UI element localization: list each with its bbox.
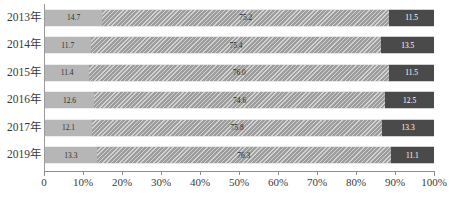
bar-segment-value-label: 76.0 (233, 69, 246, 77)
bar-segment-value-label: 13.3 (64, 151, 77, 159)
axis-tick (395, 171, 396, 175)
bar-segment-series-3: 11.5 (389, 64, 434, 81)
bar-segment-series-2: 74.6 (94, 92, 385, 109)
stacked-bar-chart: 2013年14.775.211.52014年11.775.413.52015年1… (0, 0, 452, 202)
stacked-bar: 14.775.211.5 (45, 9, 434, 26)
bar-row: 2017年12.175.813.3 (0, 114, 452, 141)
bar-segment-value-label: 13.3 (402, 124, 415, 132)
bar-segment-value-label: 11.5 (405, 69, 418, 77)
bar-segment-value-label: 76.3 (237, 151, 250, 159)
axis-tick (200, 171, 201, 175)
axis-tick (161, 171, 162, 175)
axis-tick-label: 80% (346, 177, 366, 188)
bar-segment-series-2: 75.2 (102, 9, 389, 26)
bar-segment-series-2: 76.0 (89, 64, 389, 81)
bar-segment-series-3: 13.3 (382, 119, 434, 136)
bar-segment-series-1: 12.1 (45, 119, 92, 136)
value-axis: 010%20%30%40%50%60%70%80%90%100% (44, 171, 434, 201)
stacked-bar: 11.476.011.5 (45, 64, 434, 81)
axis-tick (278, 171, 279, 175)
stacked-bar: 12.674.612.5 (45, 92, 434, 109)
bar-segment-value-label: 12.6 (63, 96, 76, 104)
bar-segment-series-3: 11.1 (391, 147, 434, 164)
bar-segment-value-label: 75.4 (229, 41, 242, 49)
bar-row: 2014年11.775.413.5 (0, 32, 452, 59)
axis-tick-label: 50% (229, 177, 249, 188)
bar-segment-value-label: 12.1 (62, 124, 75, 132)
axis-tick-label: 20% (112, 177, 132, 188)
bar-segment-value-label: 74.6 (233, 96, 246, 104)
bar-segment-value-label: 75.2 (239, 14, 252, 22)
bar-segment-series-3: 11.5 (389, 9, 434, 26)
bar-segment-value-label: 12.5 (403, 96, 416, 104)
axis-tick-label: 30% (151, 177, 171, 188)
bar-segment-value-label: 75.8 (231, 124, 244, 132)
category-label: 2015年 (0, 67, 41, 79)
bar-segment-value-label: 14.7 (67, 14, 80, 22)
axis-tick-label: 60% (268, 177, 288, 188)
bar-segment-value-label: 13.5 (401, 41, 414, 49)
axis-tick-label: 70% (307, 177, 327, 188)
bar-row: 2019年13.376.311.1 (0, 142, 452, 169)
category-label: 2016年 (0, 94, 41, 106)
bar-segment-series-3: 12.5 (385, 92, 434, 109)
bar-segment-series-1: 11.7 (45, 37, 91, 54)
bar-row: 2016年12.674.612.5 (0, 87, 452, 114)
bar-segment-value-label: 11.1 (406, 151, 419, 159)
axis-tick (356, 171, 357, 175)
bar-segment-series-1: 13.3 (45, 147, 97, 164)
axis-tick (122, 171, 123, 175)
bar-segment-series-1: 14.7 (45, 9, 102, 26)
category-label: 2014年 (0, 39, 41, 51)
bar-segment-value-label: 11.4 (61, 69, 74, 77)
category-label: 2017年 (0, 122, 41, 134)
axis-tick-label: 100% (421, 177, 447, 188)
bar-segment-series-1: 12.6 (45, 92, 94, 109)
axis-tick-label: 90% (385, 177, 405, 188)
bar-segment-value-label: 11.5 (405, 14, 418, 22)
category-label: 2019年 (0, 149, 41, 161)
chart-plot-area: 2013年14.775.211.52014年11.775.413.52015年1… (0, 0, 452, 172)
stacked-bar: 11.775.413.5 (45, 37, 434, 54)
axis-tick-label: 10% (73, 177, 93, 188)
axis-tick-label: 0 (41, 177, 47, 188)
bar-segment-series-3: 13.5 (381, 37, 434, 54)
stacked-bar: 13.376.311.1 (45, 147, 434, 164)
bar-row: 2013年14.775.211.5 (0, 4, 452, 31)
axis-tick (317, 171, 318, 175)
axis-tick (83, 171, 84, 175)
bar-segment-series-2: 75.8 (92, 119, 382, 136)
axis-tick (239, 171, 240, 175)
bar-segment-value-label: 11.7 (61, 41, 74, 49)
axis-tick-label: 40% (190, 177, 210, 188)
bar-row: 2015年11.476.011.5 (0, 59, 452, 86)
stacked-bar: 12.175.813.3 (45, 119, 434, 136)
bar-segment-series-1: 11.4 (45, 64, 89, 81)
category-label: 2013年 (0, 12, 41, 24)
bar-segment-series-2: 75.4 (91, 37, 382, 54)
bar-segment-series-2: 76.3 (97, 147, 391, 164)
